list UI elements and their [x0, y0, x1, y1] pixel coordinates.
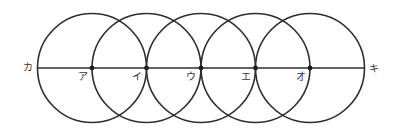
- label-ka: カ: [23, 63, 33, 73]
- point-e-dot: [253, 66, 258, 71]
- point-u-dot: [199, 66, 204, 71]
- label-e: エ: [241, 72, 251, 82]
- label-ki: キ: [369, 64, 379, 74]
- point-i-dot: [144, 66, 149, 71]
- label-o: オ: [296, 72, 306, 82]
- label-u: ウ: [186, 72, 196, 82]
- label-i: イ: [132, 72, 142, 82]
- point-o-dot: [308, 66, 313, 71]
- five-circles-diagram: [0, 0, 398, 132]
- label-a: ア: [78, 72, 88, 82]
- point-a-dot: [90, 66, 95, 71]
